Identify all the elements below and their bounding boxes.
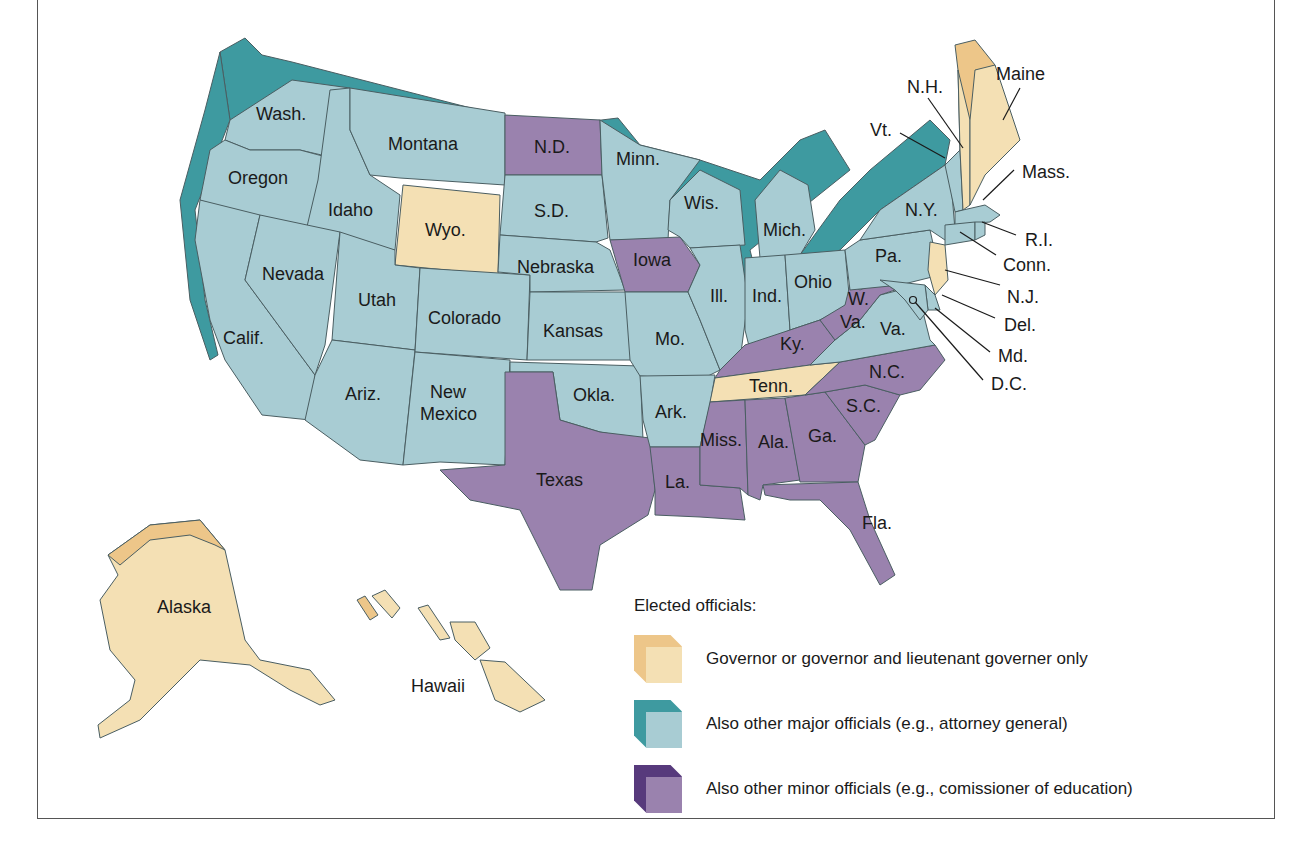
label-nh: N.H. xyxy=(907,77,943,97)
label-okla: Okla. xyxy=(573,385,615,405)
label-texas: Texas xyxy=(536,470,583,490)
label-montana: Montana xyxy=(388,134,459,154)
state-nj[interactable] xyxy=(928,242,948,295)
legend-title: Elected officials: xyxy=(634,596,1133,616)
label-ny: N.Y. xyxy=(905,200,938,220)
label-oregon: Oregon xyxy=(228,168,288,188)
label-nc: N.C. xyxy=(869,362,905,382)
label-iowa: Iowa xyxy=(633,250,672,270)
legend-item-governor-only: Governor or governor and lieutenant gove… xyxy=(634,626,1133,691)
label-va: Va. xyxy=(880,319,906,339)
state-ri[interactable] xyxy=(975,222,985,240)
label-ohio: Ohio xyxy=(794,272,832,292)
label-wva-2: Va. xyxy=(840,312,866,332)
label-idaho: Idaho xyxy=(328,200,373,220)
label-mass: Mass. xyxy=(1022,162,1070,182)
swatch-major-officials xyxy=(634,700,682,748)
label-la: La. xyxy=(665,472,690,492)
label-mo: Mo. xyxy=(655,329,685,349)
legend-label: Governor or governor and lieutenant gove… xyxy=(706,649,1088,669)
legend-label: Also other major officials (e.g., attorn… xyxy=(706,714,1068,734)
label-new-mexico-2: Mexico xyxy=(420,404,477,424)
label-new-mexico-1: New xyxy=(430,382,467,402)
label-ga: Ga. xyxy=(808,426,837,446)
label-fla: Fla. xyxy=(862,513,892,533)
label-tenn: Tenn. xyxy=(749,376,793,396)
label-mich: Mich. xyxy=(763,220,806,240)
label-colorado: Colorado xyxy=(428,308,501,328)
label-wva-1: W. xyxy=(848,289,869,309)
label-sc: S.C. xyxy=(846,396,881,416)
state-alaska[interactable] xyxy=(98,520,335,738)
label-md: Md. xyxy=(998,346,1028,366)
legend-item-minor-officials: Also other minor officials (e.g., comiss… xyxy=(634,756,1133,821)
label-vt: Vt. xyxy=(870,120,892,140)
label-pa: Pa. xyxy=(875,246,902,266)
state-fla[interactable] xyxy=(763,482,895,585)
label-nd: N.D. xyxy=(534,137,570,157)
label-nj: N.J. xyxy=(1007,287,1039,307)
label-minn: Minn. xyxy=(616,149,660,169)
label-nevada: Nevada xyxy=(262,264,325,284)
legend-item-major-officials: Also other major officials (e.g., attorn… xyxy=(634,691,1133,756)
label-conn: Conn. xyxy=(1003,255,1051,275)
label-del: Del. xyxy=(1004,315,1036,335)
state-conn[interactable] xyxy=(945,222,975,245)
swatch-governor-only xyxy=(634,635,682,683)
label-utah: Utah xyxy=(358,290,396,310)
label-calif: Calif. xyxy=(223,328,264,348)
label-ill: Ill. xyxy=(710,286,728,306)
label-sd: S.D. xyxy=(534,201,569,221)
label-maine: Maine xyxy=(996,64,1045,84)
label-ariz: Ariz. xyxy=(345,384,381,404)
legend-label: Also other minor officials (e.g., comiss… xyxy=(706,779,1133,799)
label-ala: Ala. xyxy=(758,432,789,452)
label-nebraska: Nebraska xyxy=(517,257,595,277)
label-ri: R.I. xyxy=(1025,230,1053,250)
label-alaska: Alaska xyxy=(157,597,212,617)
label-kansas: Kansas xyxy=(543,321,603,341)
label-dc: D.C. xyxy=(991,374,1027,394)
state-maine[interactable] xyxy=(970,65,1020,205)
label-ind: Ind. xyxy=(752,286,782,306)
swatch-minor-officials xyxy=(634,765,682,813)
label-ark: Ark. xyxy=(655,402,687,422)
label-wis: Wis. xyxy=(684,193,719,213)
legend: Elected officials: Governor or governor … xyxy=(634,596,1133,821)
label-ky: Ky. xyxy=(780,334,805,354)
label-wyo: Wyo. xyxy=(425,220,466,240)
label-miss: Miss. xyxy=(700,430,742,450)
label-wash: Wash. xyxy=(256,104,306,124)
label-hawaii: Hawaii xyxy=(411,676,465,696)
